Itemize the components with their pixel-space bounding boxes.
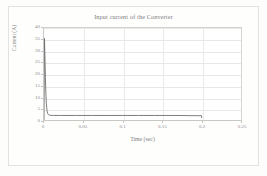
x-tick-label: 0 bbox=[31, 124, 55, 130]
y-tick-mark bbox=[41, 109, 43, 110]
x-tick-mark bbox=[202, 121, 203, 123]
y-tick-label: 10 bbox=[35, 95, 40, 101]
y-tick-mark bbox=[41, 39, 43, 40]
x-axis-label: Time (sec) bbox=[43, 136, 242, 143]
y-tick-label: 35 bbox=[35, 36, 40, 42]
y-tick-mark bbox=[41, 74, 43, 75]
y-tick-mark bbox=[41, 98, 43, 99]
y-tick-label: 20 bbox=[35, 71, 40, 77]
x-tick-mark bbox=[83, 121, 84, 123]
y-axis-ticks: 0510152025303540 bbox=[23, 27, 40, 121]
y-tick-mark bbox=[41, 62, 43, 63]
x-tick-mark bbox=[241, 121, 242, 123]
line-series-input-current bbox=[44, 38, 202, 120]
x-tick-label: 0.25 bbox=[230, 124, 254, 130]
chart-title: Input current of the Converter bbox=[0, 13, 267, 21]
y-tick-mark bbox=[41, 51, 43, 52]
x-tick-label: 0.1 bbox=[111, 124, 135, 130]
y-tick-label: 40 bbox=[35, 24, 40, 30]
y-axis-label: Current (A) bbox=[11, 8, 18, 68]
y-tick-label: 30 bbox=[35, 48, 40, 54]
plot-area bbox=[43, 27, 242, 121]
x-axis-ticks: 00.050.10.150.20.25 bbox=[43, 124, 242, 132]
y-tick-mark bbox=[41, 27, 43, 28]
y-tick-label: 25 bbox=[35, 59, 40, 65]
y-tick-mark bbox=[41, 86, 43, 87]
data-series-layer bbox=[44, 28, 241, 120]
y-tick-label: 15 bbox=[35, 83, 40, 89]
x-tick-mark bbox=[43, 121, 44, 123]
x-tick-mark bbox=[162, 121, 163, 123]
x-tick-label: 0.15 bbox=[150, 124, 174, 130]
y-tick-label: 5 bbox=[38, 106, 41, 112]
x-tick-label: 0.2 bbox=[190, 124, 214, 130]
chart-figure: Input current of the Converter 051015202… bbox=[0, 0, 267, 176]
x-tick-label: 0.05 bbox=[71, 124, 95, 130]
x-tick-mark bbox=[123, 121, 124, 123]
